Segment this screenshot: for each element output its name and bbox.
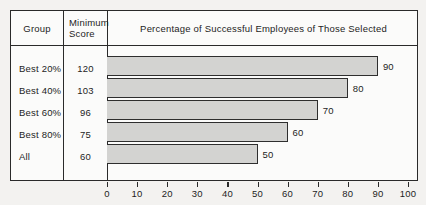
column-header-minimum-line1: Minimum [69, 17, 109, 29]
table-row-score: 103 [64, 79, 107, 101]
x-axis-tick [137, 182, 138, 187]
x-axis-tick-label: 0 [104, 188, 109, 199]
x-axis-tick-label: 40 [222, 188, 233, 199]
x-axis-tick [258, 182, 259, 187]
bar-value-label: 50 [263, 144, 274, 164]
table-row-label: Best 20% [11, 57, 63, 79]
bar-value-label: 70 [323, 100, 334, 120]
table-row-label: Best 80% [11, 123, 63, 145]
table-row-label: Best 40% [11, 79, 63, 101]
table-row-score: 96 [64, 101, 107, 123]
x-axis-tick-label: 50 [252, 188, 263, 199]
bar [107, 144, 258, 164]
x-axis-tick [408, 182, 409, 187]
x-axis-tick-label: 70 [312, 188, 323, 199]
bar-chart-figure: Group Minimum Score Percentage of Succes… [0, 0, 426, 205]
bar [107, 100, 318, 120]
x-axis-tick-label: 20 [162, 188, 173, 199]
header-divider [11, 45, 417, 46]
x-axis-tick [378, 182, 379, 187]
bar [107, 78, 348, 98]
x-axis-tick [167, 182, 168, 187]
table-row-label: All [11, 145, 63, 167]
x-axis-tick [197, 182, 198, 187]
column-header-percentage-label: Percentage of Successful Employees of Th… [140, 23, 387, 34]
bar-value-label: 90 [383, 56, 394, 76]
column-header-minimum-score: Minimum Score [64, 11, 107, 45]
table-row-label: Best 60% [11, 101, 63, 123]
x-axis-tick [227, 182, 228, 187]
x-axis-tick [288, 182, 289, 187]
column-header-percentage: Percentage of Successful Employees of Th… [108, 11, 419, 45]
x-axis-tick [107, 182, 108, 187]
column-header-group: Group [11, 11, 63, 45]
bar-value-label: 80 [353, 78, 364, 98]
x-axis-tick-label: 90 [372, 188, 383, 199]
x-axis-tick-label: 10 [132, 188, 143, 199]
bar [107, 122, 288, 142]
x-axis-tick [318, 182, 319, 187]
table-row-score: 120 [64, 57, 107, 79]
column-header-minimum-line2: Score [69, 28, 95, 40]
x-axis-tick-label: 30 [192, 188, 203, 199]
x-axis-tick-label: 80 [342, 188, 353, 199]
x-axis-tick-label: 100 [400, 188, 416, 199]
bar-value-label: 60 [293, 122, 304, 142]
x-axis-tick-label: 60 [282, 188, 293, 199]
x-axis-tick [348, 182, 349, 187]
bar [107, 56, 378, 76]
table-row-score: 60 [64, 145, 107, 167]
table-row-score: 75 [64, 123, 107, 145]
column-header-group-label: Group [23, 23, 50, 34]
